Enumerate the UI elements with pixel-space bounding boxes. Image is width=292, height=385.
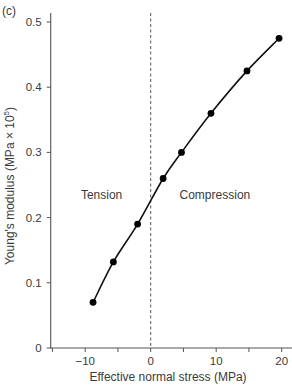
x-tick-label: 10 <box>210 355 223 367</box>
chart: (c) 00.10.20.30.40.5−1001020 TensionComp… <box>0 0 292 385</box>
data-point <box>134 221 141 228</box>
y-tick-label: 0.5 <box>26 16 42 28</box>
data-point <box>208 110 215 117</box>
data-markers <box>90 35 283 306</box>
annotation-tension: Tension <box>81 188 122 202</box>
annotations: TensionCompression <box>81 188 250 202</box>
x-tick-label: −10 <box>75 355 95 367</box>
y-tick-label: 0.3 <box>26 146 42 158</box>
data-point <box>244 68 251 75</box>
y-tick-label: 0.2 <box>26 212 42 224</box>
x-tick-label: 20 <box>275 355 288 367</box>
data-point <box>178 149 185 156</box>
y-axis-label: Young's modulus (MPa × 105) <box>2 107 17 265</box>
x-tick-label: 0 <box>147 355 153 367</box>
data-curve <box>93 38 279 302</box>
annotation-compression: Compression <box>180 188 251 202</box>
x-axis-label: Effective normal stress (MPa) <box>89 370 246 384</box>
y-tick-label: 0.1 <box>26 277 42 289</box>
panel-label: (c) <box>2 4 16 18</box>
y-tick-label: 0.4 <box>26 81 43 93</box>
data-point <box>110 259 117 266</box>
data-point <box>90 299 97 306</box>
y-tick-label: 0 <box>35 342 41 354</box>
data-point <box>276 35 283 42</box>
data-point <box>160 175 167 182</box>
